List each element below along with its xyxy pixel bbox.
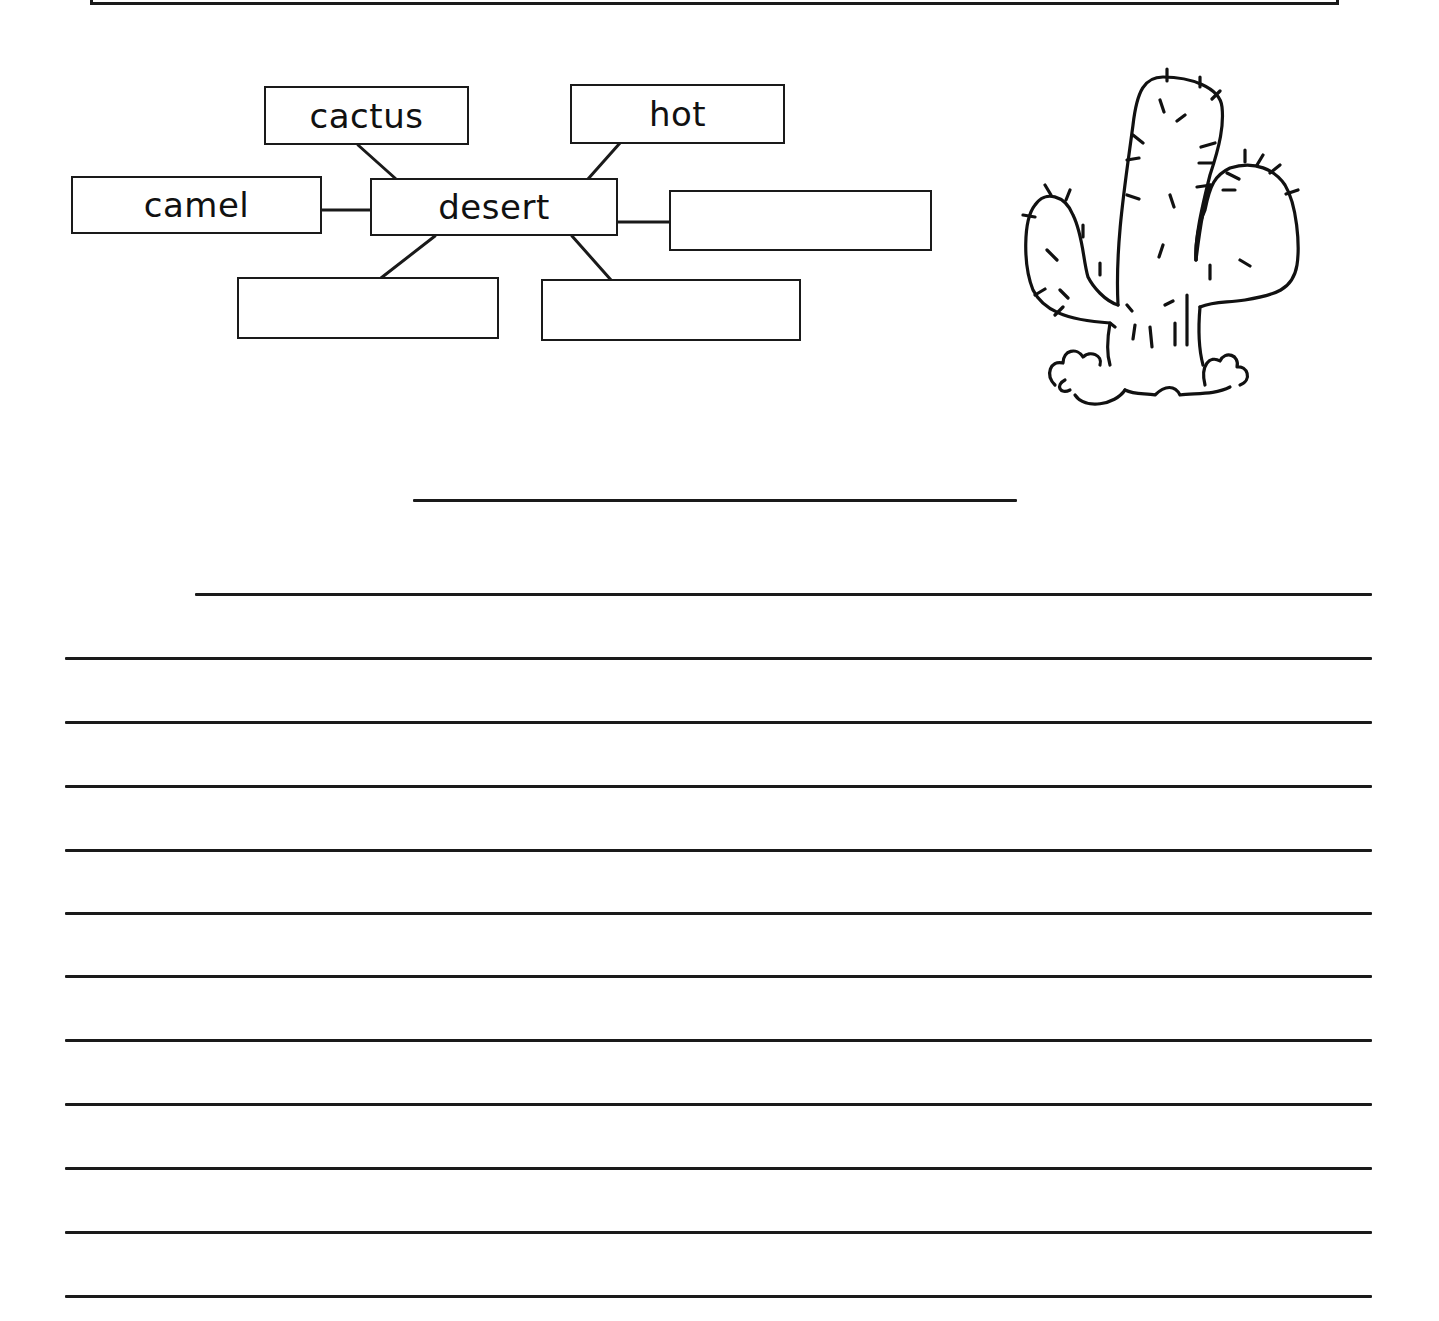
center-label: desert: [438, 187, 549, 227]
writing-line-4[interactable]: [65, 785, 1372, 788]
writing-line-12[interactable]: [65, 1295, 1372, 1298]
connector-cactus: [358, 145, 396, 179]
word-web-node-camel: camel: [71, 176, 322, 234]
connector-bottom-left: [381, 236, 435, 278]
title-writing-line[interactable]: [413, 499, 1017, 502]
node-label: hot: [649, 94, 706, 134]
writing-line-9[interactable]: [65, 1103, 1372, 1106]
writing-line-3[interactable]: [65, 721, 1372, 724]
word-web-node-hot: hot: [570, 84, 785, 144]
writing-line-7[interactable]: [65, 975, 1372, 978]
writing-line-10[interactable]: [65, 1167, 1372, 1170]
connector-bottom-right: [572, 236, 611, 280]
word-web-blank-right[interactable]: [669, 190, 932, 251]
word-web-blank-bottom-right[interactable]: [541, 279, 801, 341]
word-web-center-desert: desert: [370, 178, 618, 236]
writing-line-5[interactable]: [65, 849, 1372, 852]
writing-line-6[interactable]: [65, 912, 1372, 915]
connector-hot: [588, 143, 620, 179]
word-web-node-cactus: cactus: [264, 86, 469, 145]
writing-line-1[interactable]: [195, 593, 1372, 596]
word-web-blank-bottom-left[interactable]: [237, 277, 499, 339]
writing-line-8[interactable]: [65, 1039, 1372, 1042]
cactus-icon: [1015, 65, 1315, 415]
node-label: cactus: [310, 96, 424, 136]
node-label: camel: [144, 185, 250, 225]
writing-line-11[interactable]: [65, 1231, 1372, 1234]
writing-line-2[interactable]: [65, 657, 1372, 660]
